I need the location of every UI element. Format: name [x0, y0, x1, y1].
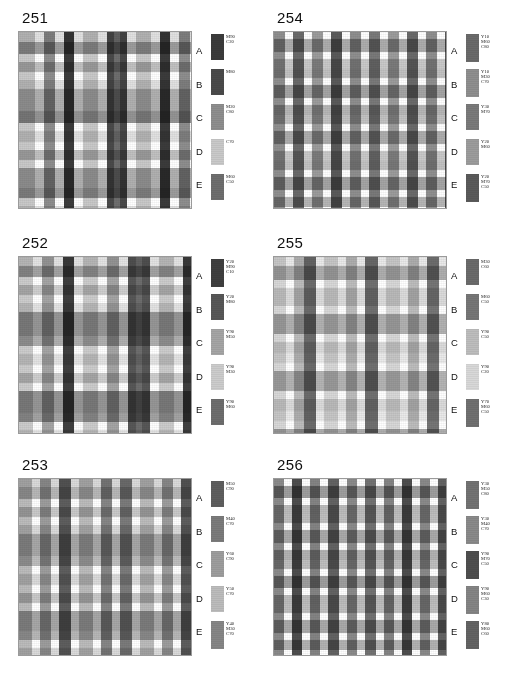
- legend-item[interactable]: Y50C70: [211, 586, 234, 612]
- legend-label: Y50C70: [226, 586, 234, 596]
- fabric-swatch[interactable]: [18, 31, 192, 209]
- legend: M30C60M60C50Y90C50Y90C20Y70M60C50: [466, 256, 510, 436]
- legend-item[interactable]: M90C20: [211, 34, 235, 60]
- legend-item[interactable]: Y30M50C80: [466, 481, 490, 509]
- legend-item[interactable]: M20C80: [211, 104, 235, 130]
- weft-stripe: [19, 346, 191, 354]
- legend-item[interactable]: Y90M50: [211, 329, 235, 355]
- row-label: C: [196, 560, 203, 570]
- legend-item[interactable]: Y20M60: [466, 139, 490, 165]
- weft-stripe: [274, 498, 446, 505]
- legend-color-chip: [466, 399, 479, 427]
- legend-item[interactable]: Y70M60C50: [466, 399, 490, 427]
- legend-item[interactable]: Y80M60C60: [466, 621, 490, 649]
- legend-item[interactable]: M60C50: [211, 174, 235, 200]
- weft-stripe: [19, 312, 191, 336]
- legend-item[interactable]: Y30M40C70: [466, 516, 490, 544]
- fabric-swatch[interactable]: [18, 256, 192, 434]
- row-label-column: ABCDE: [449, 256, 465, 434]
- row-label: D: [196, 147, 203, 157]
- chip-texture: [211, 551, 224, 577]
- row-label: A: [196, 493, 202, 503]
- legend-item[interactable]: Y90M70C50: [466, 551, 490, 579]
- weft-stripe: [19, 593, 191, 603]
- legend-item[interactable]: Y60C90: [211, 551, 234, 577]
- row-label: D: [451, 372, 458, 382]
- weft-stripe: [19, 566, 191, 574]
- legend-item[interactable]: Y90M60: [211, 399, 235, 425]
- weft-stripe: [274, 620, 446, 633]
- legend-label: M30C60: [481, 259, 490, 269]
- legend-label-line: C30: [481, 596, 490, 601]
- legend-item[interactable]: Y20M80: [211, 294, 235, 320]
- legend-item[interactable]: M60C50: [466, 294, 490, 320]
- swatch-panel: 253ABCDEM50C90M40C70Y60C90Y50C70Y40M30C7…: [0, 453, 255, 677]
- weft-stripe: [274, 280, 446, 288]
- swatch-panel: 256ABCDEY30M50C80Y30M40C70Y90M70C50Y90M6…: [255, 453, 510, 677]
- legend-label-line: C80: [481, 44, 490, 49]
- weft-stripe: [274, 52, 446, 59]
- legend-item[interactable]: M40C70: [211, 516, 235, 542]
- legend-color-chip: [211, 399, 224, 425]
- legend-item[interactable]: M50C90: [211, 481, 235, 507]
- fabric-swatch[interactable]: [18, 478, 192, 656]
- legend-label-line: C90: [226, 556, 234, 561]
- weft-stripe: [19, 206, 191, 209]
- row-label: D: [451, 147, 458, 157]
- weft-stripe: [274, 399, 446, 411]
- legend-label-line: M60: [481, 144, 490, 149]
- weft-stripe: [19, 32, 191, 42]
- legend-item[interactable]: M80: [211, 69, 235, 95]
- fabric-swatch[interactable]: [273, 256, 447, 434]
- row-label-column: ABCDE: [194, 256, 210, 434]
- legend-item[interactable]: M30C60: [466, 259, 490, 285]
- weft-stripe: [274, 391, 446, 399]
- row-label: A: [196, 46, 202, 56]
- fabric-swatch[interactable]: [273, 31, 447, 209]
- legend-label-line: C50: [481, 409, 490, 414]
- row-label: B: [451, 305, 457, 315]
- legend-color-chip: [466, 294, 479, 320]
- weft-stripe: [19, 611, 191, 631]
- weft-stripe: [19, 295, 191, 303]
- legend-color-chip: [211, 34, 224, 60]
- legend-item[interactable]: Y20M70C50: [466, 174, 490, 202]
- weft-stripe: [274, 342, 446, 353]
- legend: M90C20M80M20C80C70M60C50: [211, 31, 255, 211]
- legend-color-chip: [211, 294, 224, 320]
- legend-item[interactable]: Y90M60C30: [466, 586, 490, 614]
- weft-stripe: [274, 588, 446, 595]
- legend-label: Y90M50: [226, 329, 235, 339]
- legend-color-chip: [466, 621, 479, 649]
- legend-label: Y90C20: [481, 364, 489, 374]
- legend-label-line: C50: [481, 184, 490, 189]
- legend-label: C70: [226, 139, 234, 144]
- swatch-panel: 252ABCDEY20M90C10Y20M80Y90M50Y90M30Y90M6…: [0, 231, 255, 453]
- legend-color-chip: [466, 139, 479, 165]
- weft-stripe: [274, 98, 446, 105]
- weft-stripe: [19, 422, 191, 430]
- legend-item[interactable]: Y90M30: [211, 364, 235, 390]
- legend-item[interactable]: Y20M90C10: [211, 259, 235, 287]
- legend-item[interactable]: C70: [211, 139, 234, 165]
- legend-item[interactable]: Y90C50: [466, 329, 489, 355]
- legend-item[interactable]: Y30M70: [466, 104, 490, 130]
- weft-stripe: [274, 115, 446, 124]
- chip-texture: [211, 481, 224, 507]
- legend-label: Y30M50C80: [481, 481, 490, 496]
- panel-body: ABCDEM50C90M40C70Y60C90Y50C70Y40M30C70: [18, 478, 255, 658]
- legend-color-chip: [211, 364, 224, 390]
- legend-item[interactable]: Y90C20: [466, 364, 489, 390]
- fabric-swatch[interactable]: [273, 478, 447, 656]
- legend: Y30M50C80Y30M40C70Y90M70C50Y90M60C30Y80M…: [466, 478, 510, 658]
- weft-stripe: [19, 430, 191, 434]
- weft-stripe: [274, 514, 446, 523]
- legend-item[interactable]: Y10M30C70: [466, 69, 490, 97]
- legend-color-chip: [211, 621, 224, 649]
- legend-label-line: C70: [481, 79, 490, 84]
- row-label: E: [451, 405, 457, 415]
- legend-item[interactable]: Y40M30C70: [211, 621, 235, 649]
- weft-stripe: [274, 39, 446, 52]
- weft-stripe: [19, 383, 191, 391]
- legend-item[interactable]: Y10M60C80: [466, 34, 490, 62]
